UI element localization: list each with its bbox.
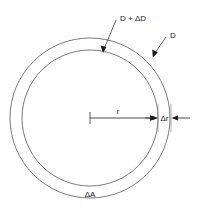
radial-increment-label: Δr (160, 114, 168, 123)
delta-r-arrowhead-left (152, 115, 159, 120)
annulus-diagram: D + ΔD D r Δr ΔA (0, 0, 197, 214)
outer-diameter-label: D (170, 31, 176, 40)
inner-diameter-leader-line (104, 20, 116, 49)
delta-r-arrowhead-right (172, 115, 179, 120)
outer-diameter-leader-line (155, 37, 166, 53)
radius-label: r (117, 107, 120, 116)
diagram-canvas: D + ΔD D r Δr ΔA (0, 0, 197, 214)
area-increment-label: ΔA (85, 190, 96, 199)
inner-diameter-label: D + ΔD (120, 14, 146, 23)
